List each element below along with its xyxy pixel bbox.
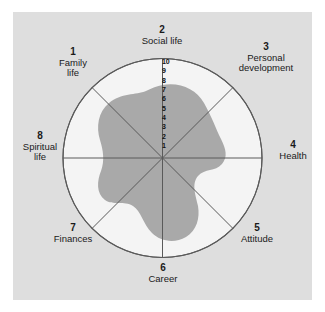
axis-label-spiritual-life: 8 Spiritual life <box>13 131 67 162</box>
axis-name: Attitude <box>225 234 289 244</box>
scale-tick: 1 <box>162 141 182 150</box>
axis-label-health: 4 Health <box>268 140 318 161</box>
scale-tick: 10 <box>162 57 182 66</box>
scale-tick: 3 <box>162 122 182 131</box>
axis-label-personal-development: 3 Personal development <box>218 42 314 73</box>
scale-tick: 6 <box>162 94 182 103</box>
axis-name: Finances <box>38 234 108 244</box>
scale-tick: 7 <box>162 85 182 94</box>
axis-name: Family life <box>38 58 108 79</box>
axis-label-attitude: 5 Attitude <box>225 223 289 244</box>
wheel-of-life-figure: 10 9 8 7 6 5 4 3 2 1 1 Family life 2 Soc… <box>0 0 325 312</box>
axis-name: Social life <box>112 36 212 46</box>
scale-tick: 9 <box>162 66 182 75</box>
axis-label-social-life: 2 Social life <box>112 25 212 46</box>
scale-tick: 8 <box>162 76 182 85</box>
axis-label-career: 6 Career <box>128 263 198 284</box>
scale-tick: 4 <box>162 113 182 122</box>
axis-name: Spiritual life <box>13 142 67 163</box>
axis-name: Health <box>268 151 318 161</box>
axis-name: Career <box>128 274 198 284</box>
axis-name: Personal development <box>218 53 314 74</box>
scale-tick: 2 <box>162 132 182 141</box>
scale-tick: 5 <box>162 104 182 113</box>
axis-label-finances: 7 Finances <box>38 223 108 244</box>
axis-label-family-life: 1 Family life <box>38 47 108 78</box>
scale-tick-labels: 10 9 8 7 6 5 4 3 2 1 <box>162 57 182 150</box>
